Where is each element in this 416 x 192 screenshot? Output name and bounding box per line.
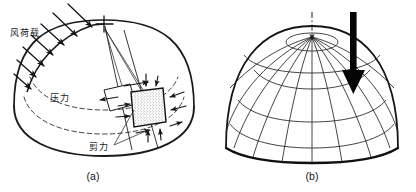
shear-label: 剪力 — [89, 141, 109, 152]
panel-a-drawing: 风荷载 压力 剪力 (a) — [0, 0, 208, 192]
dome-meridians-b — [226, 37, 398, 163]
panel-a-wind-load: 风荷载 压力 剪力 (a) — [0, 0, 208, 192]
stress-element-front-face — [131, 88, 166, 127]
dome-outline-a — [14, 20, 194, 156]
pressure-label: 压力 — [50, 92, 70, 103]
vertical-load-arrow-b — [342, 12, 365, 94]
panel-b-vertical-load: (b) — [208, 0, 416, 192]
wind-load-arrows — [14, 4, 92, 89]
stress-element-a — [104, 84, 166, 127]
caption-a: (a) — [87, 170, 100, 182]
wind-load-label: 风荷载 — [10, 27, 40, 38]
figure-root: 风荷载 压力 剪力 (a) — [0, 0, 416, 192]
caption-b: (b) — [306, 170, 319, 182]
panel-b-drawing: (b) — [208, 0, 416, 192]
